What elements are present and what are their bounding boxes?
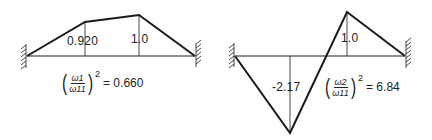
fixed-support-icon bbox=[229, 43, 234, 68]
left-paren: ( bbox=[62, 72, 67, 94]
frequency-fraction: ω2 ω11 bbox=[331, 77, 349, 98]
fixed-support-icon bbox=[406, 38, 411, 68]
frequency-fraction: ω1 ω11 bbox=[68, 73, 86, 94]
mode-2-node-label-2: 1.0 bbox=[341, 32, 358, 44]
exponent: 2 bbox=[358, 73, 363, 83]
fraction-denominator: ω11 bbox=[68, 84, 86, 94]
left-paren: ( bbox=[325, 76, 330, 98]
fraction-numerator: ω1 bbox=[71, 73, 85, 84]
mode-2-node-label-1: -2.17 bbox=[272, 81, 300, 93]
mode-1-deflection-curve bbox=[27, 15, 195, 56]
fixed-support-icon bbox=[21, 44, 26, 69]
fraction-denominator: ω11 bbox=[331, 88, 349, 98]
right-paren: ) bbox=[351, 76, 356, 98]
mode-1-frequency-ratio: ( ω1 ω11 ) 2 = 0.660 bbox=[61, 72, 143, 94]
exponent: 2 bbox=[95, 69, 100, 79]
mode-1-node-label-2: 1.0 bbox=[131, 33, 148, 45]
fraction-numerator: ω2 bbox=[334, 77, 348, 88]
fixed-support-icon bbox=[196, 40, 201, 67]
mode-1-node-label-1: 0.920 bbox=[67, 35, 98, 47]
ratio-value: = 6.84 bbox=[366, 80, 400, 94]
mode-1-shape bbox=[27, 15, 195, 56]
ratio-value: = 0.660 bbox=[103, 76, 143, 90]
mode-2-shape bbox=[235, 12, 405, 133]
mode-2-deflection-curve bbox=[235, 12, 405, 133]
mode-2-frequency-ratio: ( ω2 ω11 ) 2 = 6.84 bbox=[324, 76, 400, 98]
right-paren: ) bbox=[88, 72, 93, 94]
